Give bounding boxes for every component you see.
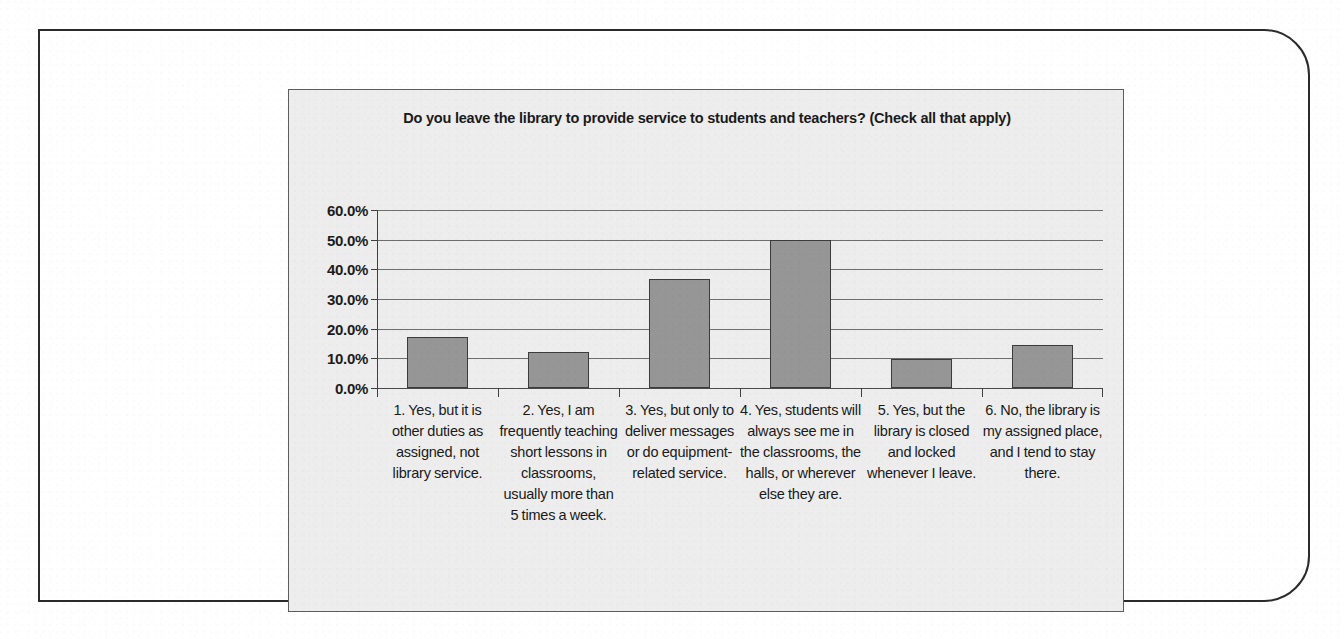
value-axis-label: 0.0%	[335, 380, 368, 397]
category-axis-tick	[740, 388, 741, 397]
value-axis-label: 20.0%	[327, 320, 368, 337]
category-label-6: 6. No, the library is my assigned place,…	[982, 400, 1103, 484]
category-label-1: 1. Yes, but it is other duties as assign…	[377, 400, 498, 484]
value-axis-tick	[371, 269, 377, 270]
bar	[770, 240, 831, 388]
value-axis-tick	[371, 210, 377, 211]
gridline	[377, 269, 1103, 270]
gridline	[377, 299, 1103, 300]
plot-area: 60.0%50.0%40.0%30.0%20.0%10.0%0.0%	[377, 210, 1103, 388]
value-axis-label: 40.0%	[327, 261, 368, 278]
category-label-4: 4. Yes, students will always see me in t…	[740, 400, 861, 505]
gridline	[377, 210, 1103, 211]
gridline	[377, 329, 1103, 330]
bar	[1012, 345, 1073, 388]
gridline	[377, 240, 1103, 241]
value-axis-tick	[371, 240, 377, 241]
category-axis-tick	[861, 388, 862, 397]
category-axis-tick	[982, 388, 983, 397]
value-axis-line	[377, 210, 378, 388]
value-axis-label: 60.0%	[327, 202, 368, 219]
value-axis-tick	[371, 329, 377, 330]
chart-title: Do you leave the library to provide serv…	[341, 108, 1073, 129]
category-axis-tick	[377, 388, 378, 397]
gridline	[377, 358, 1103, 359]
category-axis-tick	[619, 388, 620, 397]
value-axis-label: 10.0%	[327, 350, 368, 367]
category-axis-ticks	[377, 388, 1103, 397]
bar	[891, 359, 952, 388]
value-axis-label: 30.0%	[327, 291, 368, 308]
category-axis-labels: 1. Yes, but it is other duties as assign…	[377, 400, 1103, 600]
bar	[528, 352, 589, 388]
bar	[407, 337, 468, 388]
value-axis-tick	[371, 358, 377, 359]
category-axis-tick	[498, 388, 499, 397]
category-label-5: 5. Yes, but the library is closed and lo…	[861, 400, 982, 484]
category-label-3: 3. Yes, but only to deliver messages or …	[619, 400, 740, 484]
page-border-frame: Do you leave the library to provide serv…	[38, 29, 1310, 602]
bar	[649, 279, 710, 388]
value-axis-label: 50.0%	[327, 231, 368, 248]
chart-container: Do you leave the library to provide serv…	[288, 89, 1124, 612]
category-axis-tick	[1102, 388, 1103, 397]
category-label-2: 2. Yes, I am frequently teaching short l…	[498, 400, 619, 526]
scanned-page: Do you leave the library to provide serv…	[0, 0, 1344, 639]
value-axis-tick	[371, 299, 377, 300]
